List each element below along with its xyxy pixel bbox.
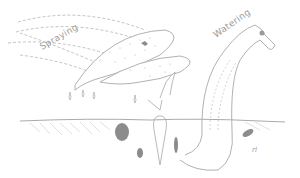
artist-signature: rl <box>252 146 257 154</box>
soil-hatching <box>30 122 270 135</box>
spraying-vs-watering-illustration: Spraying Watering <box>0 0 300 178</box>
carrot-plant <box>148 72 175 165</box>
rose-nozzle <box>260 31 265 36</box>
water-drops <box>69 90 136 103</box>
watering-can <box>180 25 275 170</box>
watering-label: Watering <box>211 7 252 40</box>
soil-stones <box>115 123 255 158</box>
ground-surface <box>20 119 285 122</box>
